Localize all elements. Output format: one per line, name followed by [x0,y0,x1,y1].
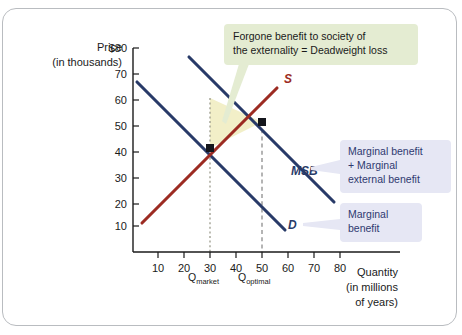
x-axis-title: Quantity [357,266,398,278]
y-tick-label-40: 40 [115,146,127,158]
y-tick-label-10: 10 [115,220,127,232]
x-axis-subtitle-1: (in millions [346,281,398,293]
y-tick-label-60: 60 [115,94,127,106]
msb-callout-line2: + Marginal [348,159,397,171]
x-tick-label-10: 10 [152,262,164,274]
optimal-equilibrium-marker [258,118,266,126]
msb-callout: Marginal benefit + Marginal external ben… [340,140,451,193]
deadweight-callout-line2: the externality = Deadweight loss [233,44,387,56]
x-axis-ticks [158,252,340,258]
economics-supply-demand-chart: $80 70 60 50 40 30 20 10 10 20 30 40 50 … [0,0,462,335]
deadweight-callout-line1: Forgone benefit to society of [233,30,366,42]
y-axis-ticks [133,48,139,226]
x-tick-label-50: 50 [256,262,268,274]
mb-callout: Marginal benefit [340,203,422,242]
msb-callout-line3: external benefit [348,173,420,185]
demand-curve-label: D [288,218,297,232]
msb-curve-label: MSB [291,164,318,178]
mb-callout-line2: benefit [348,222,380,234]
x-tick-label-30: 30 [204,262,216,274]
msb-callout-line1: Marginal benefit [348,145,423,157]
y-tick-label-70: 70 [115,68,127,80]
mb-callout-line1: Marginal [348,208,388,220]
market-equilibrium-marker [206,144,214,152]
y-axis-title: Price [97,41,122,53]
y-axis-subtitle: (in thousands) [52,56,122,68]
y-tick-label-30: 30 [115,172,127,184]
y-tick-label-20: 20 [115,198,127,210]
deadweight-loss-callout: Forgone benefit to society of the extern… [224,24,418,65]
x-axis-title-block: Quantity (in millions of years) [288,265,398,310]
supply-curve-label: S [284,72,292,86]
y-axis-title-block: Price (in thousands) [18,40,122,70]
mb-callout-pointer [303,219,340,230]
x-axis-subtitle-2: of years) [355,296,398,308]
y-tick-label-50: 50 [115,120,127,132]
